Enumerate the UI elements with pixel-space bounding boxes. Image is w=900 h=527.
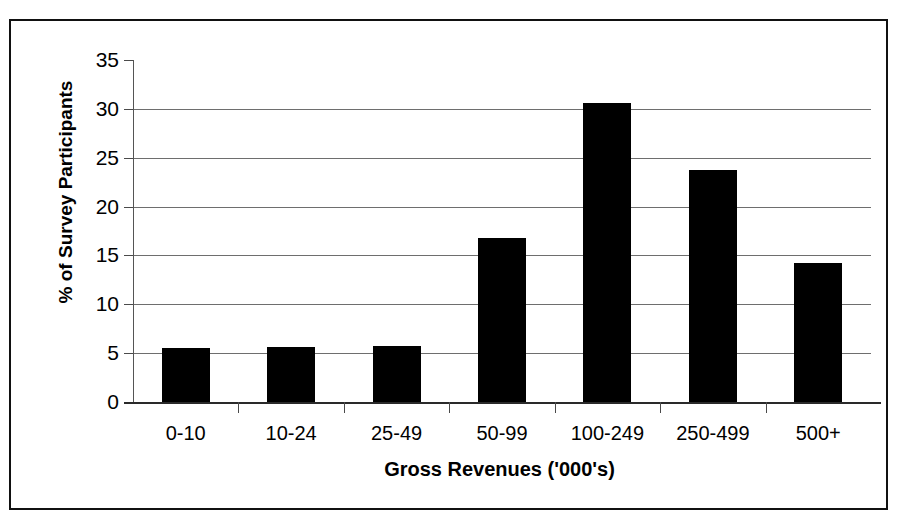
- bar: [267, 347, 315, 402]
- y-tick-label: 0: [59, 391, 119, 412]
- plot-inner: 05101520253035 0-1010-2425-4950-99100-24…: [133, 60, 871, 402]
- bar: [583, 103, 631, 402]
- x-tick-label: 10-24: [238, 422, 343, 445]
- plot-area: 05101520253035 0-1010-2425-4950-99100-24…: [124, 60, 875, 402]
- x-tick-label: 250-499: [660, 422, 765, 445]
- gridline: [133, 158, 871, 159]
- x-tick-label: 25-49: [344, 422, 449, 445]
- x-tick-label: 500+: [766, 422, 871, 445]
- bar: [373, 346, 421, 402]
- gridline: [133, 109, 871, 110]
- y-tick-label: 25: [59, 147, 119, 168]
- y-tick-label: 20: [59, 196, 119, 217]
- x-axis-title: Gross Revenues ('000's): [124, 458, 875, 481]
- x-tick-label: 100-249: [555, 422, 660, 445]
- y-tick-label: 5: [59, 342, 119, 363]
- bar: [794, 263, 842, 402]
- x-tick-mark: [344, 402, 345, 413]
- y-tick-label: 10: [59, 293, 119, 314]
- y-axis-line: [133, 60, 134, 402]
- chart-frame: % of Survey Participants 05101520253035 …: [9, 19, 888, 510]
- bar: [478, 238, 526, 402]
- x-tick-label: 0-10: [133, 422, 238, 445]
- bar: [689, 170, 737, 402]
- x-tick-mark: [449, 402, 450, 413]
- x-tick-mark: [238, 402, 239, 413]
- x-tick-label: 50-99: [449, 422, 554, 445]
- figure: % of Survey Participants 05101520253035 …: [0, 0, 900, 527]
- y-tick-label: 35: [59, 49, 119, 70]
- y-tick-label: 30: [59, 98, 119, 119]
- x-tick-mark: [766, 402, 767, 413]
- x-tick-mark: [555, 402, 556, 413]
- y-tick-label: 15: [59, 244, 119, 265]
- bar: [162, 348, 210, 402]
- gridline: [133, 207, 871, 208]
- x-tick-mark: [660, 402, 661, 413]
